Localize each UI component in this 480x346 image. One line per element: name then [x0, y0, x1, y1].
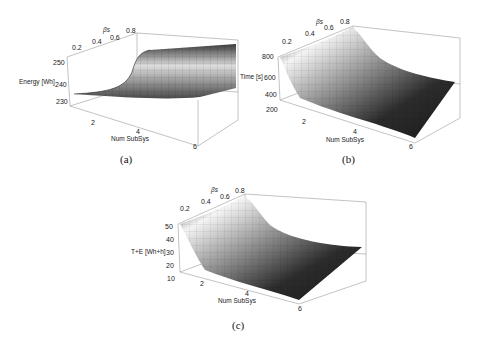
panel-b-xtick-2: 2	[302, 118, 306, 125]
panel-a-ylabel: βs	[102, 26, 111, 34]
panel-b: 800 600 400 200 Time [s] 0.2 0.4 0.6 0.8…	[240, 18, 460, 166]
panel-c-xtick-4: 4	[245, 290, 249, 297]
panel-c-zlabel: T+E [Wh+h]	[131, 248, 166, 256]
panel-b-ztick-800: 800	[262, 53, 274, 60]
panel-b-ztick-200: 200	[266, 106, 278, 113]
panel-c-ytick-0.6: 0.6	[220, 193, 230, 200]
panel-c-ztick-10: 10	[167, 275, 175, 282]
panel-b-ytick-0.6: 0.6	[324, 24, 334, 31]
panel-c-xtick-2: 2	[200, 280, 204, 287]
panel-b-ytick-0.4: 0.4	[305, 30, 315, 37]
panel-a-caption: (a)	[120, 153, 133, 166]
panel-c: 50 40 30 20 10 T+E [Wh+h] 0.2 0.4 0.6 0.…	[131, 186, 366, 332]
panel-b-xtick-6: 6	[409, 143, 413, 150]
panel-c-ztick-30: 30	[166, 249, 174, 256]
panel-b-ylabel: βs	[315, 18, 324, 26]
panel-b-ztick-400: 400	[265, 91, 277, 98]
panel-c-ylabel: βs	[210, 186, 219, 194]
panel-a-ytick-0.8: 0.8	[126, 27, 136, 34]
panel-b-ytick-0.2: 0.2	[282, 38, 292, 45]
panel-c-xtick-6: 6	[298, 305, 302, 312]
panel-b-zlabel: Time [s]	[240, 73, 263, 81]
panel-b-xlabel: Num SubSys	[326, 136, 365, 144]
panel-a-zlabel: Energy [Wh]	[19, 78, 55, 86]
panel-c-ytick-0.4: 0.4	[201, 198, 211, 205]
panel-c-surface	[180, 196, 362, 300]
panel-a: 250 240 230 Energy [Wh] 0.2 0.4 0.6 0.8 …	[19, 26, 238, 166]
panel-c-xlabel: Num SubSys	[218, 297, 257, 305]
panel-b-ztick-600: 600	[264, 74, 276, 81]
panel-c-caption: (c)	[232, 319, 245, 332]
panel-a-ytick-0.6: 0.6	[110, 34, 120, 41]
panel-a-ytick-0.4: 0.4	[92, 38, 102, 45]
panel-a-ytick-0.2: 0.2	[72, 44, 82, 51]
panel-c-ytick-0.2: 0.2	[180, 205, 190, 212]
panel-b-ytick-0.8: 0.8	[340, 18, 350, 25]
panel-c-ztick-40: 40	[166, 236, 174, 243]
panel-b-xtick-4: 4	[353, 128, 357, 135]
panel-a-xlabel: Num SubSys	[111, 135, 150, 143]
panel-a-ztick-250: 250	[53, 59, 65, 66]
panel-a-surface	[74, 44, 236, 98]
panel-c-ztick-50: 50	[165, 223, 173, 230]
panel-a-xtick-2: 2	[91, 119, 95, 126]
panel-a-xtick-6: 6	[193, 143, 197, 150]
panel-b-caption: (b)	[342, 153, 355, 166]
panel-a-ztick-240: 240	[55, 81, 67, 88]
panel-c-ztick-20: 20	[166, 262, 174, 269]
panel-a-ztick-230: 230	[56, 98, 68, 105]
figure-canvas: 250 240 230 Energy [Wh] 0.2 0.4 0.6 0.8 …	[0, 0, 480, 346]
panel-a-xtick-4: 4	[136, 128, 140, 135]
panel-b-surface	[280, 27, 455, 138]
panel-c-ytick-0.8: 0.8	[235, 187, 245, 194]
